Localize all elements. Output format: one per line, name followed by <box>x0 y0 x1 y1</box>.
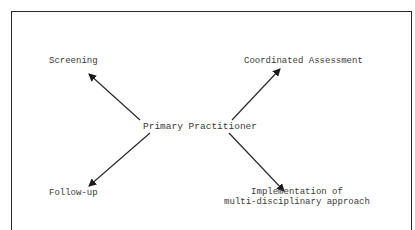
node-follow-up: Follow-up <box>49 188 98 198</box>
arrow-to-coordinated-assessment <box>232 69 280 120</box>
node-primary-practitioner: Primary Practitioner <box>143 122 257 132</box>
arrow-to-follow-up <box>89 133 150 186</box>
node-screening: Screening <box>49 56 98 66</box>
node-implementation-line-1: Implementation of <box>222 187 372 197</box>
arrow-to-screening <box>89 74 140 120</box>
node-implementation: Implementation of multi-disciplinary app… <box>222 187 372 207</box>
node-coordinated-assessment: Coordinated Assessment <box>244 56 363 66</box>
arrow-to-implementation <box>229 133 284 191</box>
node-implementation-line-2: multi-disciplinary approach <box>222 197 372 207</box>
